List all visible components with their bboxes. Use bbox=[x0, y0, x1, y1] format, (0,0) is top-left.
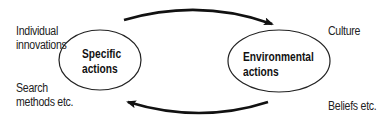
label-beliefs: Beliefs etc. bbox=[328, 99, 376, 113]
node-line: Specific bbox=[82, 47, 121, 62]
label-individual-innovations: Individual innovations bbox=[16, 24, 67, 52]
bottom-arrow-edge bbox=[128, 102, 268, 113]
node-line: actions bbox=[82, 62, 121, 77]
label-culture: Culture bbox=[328, 24, 360, 38]
label-search-methods: Search methods etc. bbox=[16, 81, 73, 109]
label-line: innovations bbox=[16, 38, 67, 52]
node-line: actions bbox=[243, 65, 314, 80]
label-line: Beliefs etc. bbox=[328, 99, 376, 113]
node-line: Environmental bbox=[243, 50, 314, 65]
label-line: methods etc. bbox=[16, 95, 73, 109]
label-line: Search bbox=[16, 81, 73, 95]
specific-actions-label: Specific actions bbox=[82, 47, 121, 77]
label-line: Culture bbox=[328, 24, 360, 38]
label-line: Individual bbox=[16, 24, 67, 38]
top-arrow-edge bbox=[124, 10, 272, 24]
environmental-actions-label: Environmental actions bbox=[243, 50, 314, 80]
